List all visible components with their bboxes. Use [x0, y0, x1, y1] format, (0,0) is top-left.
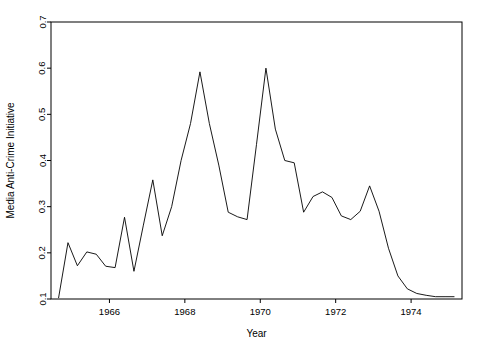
y-axis-tick-label: 0.4	[37, 154, 48, 167]
x-axis-tick-label: 1970	[250, 306, 271, 317]
y-axis-tick-label: 0.5	[37, 108, 48, 121]
x-axis-tick-label: 1966	[99, 306, 120, 317]
y-axis-tick-label: 0.1	[37, 292, 48, 305]
x-axis-title: Year	[246, 328, 267, 339]
x-axis-tick-label: 1968	[174, 306, 195, 317]
y-axis-title: Media Anti-Crime Initiative	[5, 102, 16, 219]
line-chart: 0.10.20.30.40.50.60.7 196619681970197219…	[0, 0, 480, 347]
chart-figure: 0.10.20.30.40.50.60.7 196619681970197219…	[0, 0, 480, 347]
y-axis-tick-label: 0.3	[37, 200, 48, 213]
x-axis-tick-label: 1972	[325, 306, 346, 317]
y-axis: 0.10.20.30.40.50.60.7	[37, 15, 52, 305]
x-axis: 19661968197019721974	[99, 299, 422, 317]
y-axis-tick-label: 0.6	[37, 62, 48, 75]
x-axis-tick-label: 1974	[401, 306, 422, 317]
plot-frame	[51, 22, 462, 299]
y-axis-tick-label: 0.2	[37, 246, 48, 259]
y-axis-tick-label: 0.7	[37, 15, 48, 28]
data-series-line	[59, 68, 455, 298]
